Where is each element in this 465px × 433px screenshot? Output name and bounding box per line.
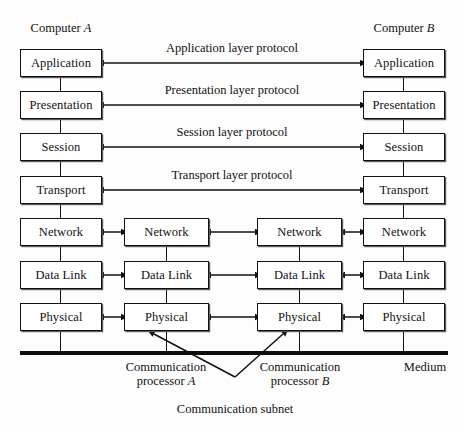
node-a-data-link[interactable]: Data Link: [20, 261, 102, 289]
drop-line-b: [403, 330, 404, 353]
caption-cpb-line1: Communication: [238, 361, 362, 375]
drop-line-cpb: [299, 330, 300, 353]
node-b-presentation[interactable]: Presentation: [363, 91, 445, 119]
node-cpa-physical[interactable]: Physical: [124, 303, 209, 331]
caption-communication-processor-a: Communication processor A: [104, 361, 228, 388]
protocol-label-session: Session layer protocol: [112, 126, 352, 139]
connector-cpa-1: [166, 245, 167, 262]
node-b-physical[interactable]: Physical: [363, 303, 445, 331]
connector-cpb-1: [299, 245, 300, 262]
caption-cpa-line1: Communication: [104, 361, 228, 375]
connector-a-1: [60, 76, 61, 92]
node-a-transport[interactable]: Transport: [20, 176, 102, 204]
node-b-application[interactable]: Application: [363, 49, 445, 77]
protocol-label-presentation: Presentation layer protocol: [112, 84, 352, 97]
node-a-presentation[interactable]: Presentation: [20, 91, 102, 119]
caption-cpa-line2-text: processor: [137, 374, 185, 388]
connector-a-5: [60, 245, 61, 262]
connector-b-4: [403, 203, 404, 219]
protocol-label-application: Application layer protocol: [112, 42, 352, 55]
connector-a-3: [60, 160, 61, 177]
connector-a-6: [60, 288, 61, 304]
connector-b-2: [403, 118, 404, 134]
osi-layers-diagram: Computer A Computer B Application layer …: [0, 0, 465, 433]
drop-line-cpa: [166, 330, 167, 353]
caption-cpb-line2: processor B: [238, 375, 362, 389]
header-computer-a-text: Computer: [31, 21, 81, 35]
drop-line-a: [60, 330, 61, 353]
header-computer-a-italic: A: [84, 21, 92, 35]
protocol-label-transport: Transport layer protocol: [112, 169, 352, 182]
header-computer-a: Computer A: [20, 22, 102, 36]
node-a-session[interactable]: Session: [20, 133, 102, 161]
caption-cpb-italic: B: [322, 374, 330, 388]
connector-a-4: [60, 203, 61, 219]
caption-medium: Medium: [386, 361, 464, 375]
node-b-session[interactable]: Session: [363, 133, 445, 161]
caption-cpa-italic: A: [188, 374, 196, 388]
medium-bus-line: [20, 351, 448, 355]
caption-communication-processor-b: Communication processor B: [238, 361, 362, 388]
connector-cpa-2: [166, 288, 167, 304]
node-cpa-network[interactable]: Network: [124, 218, 209, 246]
node-cpb-data-link[interactable]: Data Link: [257, 261, 342, 289]
node-a-physical[interactable]: Physical: [20, 303, 102, 331]
connector-cpb-2: [299, 288, 300, 304]
node-a-application[interactable]: Application: [20, 49, 102, 77]
node-a-network[interactable]: Network: [20, 218, 102, 246]
header-computer-b: Computer B: [363, 22, 445, 36]
node-cpb-physical[interactable]: Physical: [257, 303, 342, 331]
caption-cpb-line2-text: processor: [271, 374, 319, 388]
node-b-data-link[interactable]: Data Link: [363, 261, 445, 289]
caption-cpa-line2: processor A: [104, 375, 228, 389]
caption-communication-subnet: Communication subnet: [135, 403, 335, 417]
header-computer-b-text: Computer: [374, 21, 424, 35]
node-cpb-network[interactable]: Network: [257, 218, 342, 246]
connector-a-2: [60, 118, 61, 134]
connector-b-3: [403, 160, 404, 177]
header-computer-b-italic: B: [427, 21, 435, 35]
connector-b-6: [403, 288, 404, 304]
connector-b-1: [403, 76, 404, 92]
node-b-network[interactable]: Network: [363, 218, 445, 246]
node-b-transport[interactable]: Transport: [363, 176, 445, 204]
connector-b-5: [403, 245, 404, 262]
node-cpa-data-link[interactable]: Data Link: [124, 261, 209, 289]
